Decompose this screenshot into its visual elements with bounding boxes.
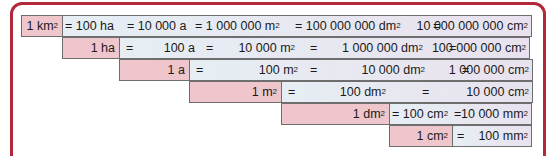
- equivalence-cell-ha: = 100 a = 10 000 m2 = 1 000 000 dm2 = 10…: [120, 37, 530, 59]
- eq-sign: =: [310, 38, 317, 58]
- unit-label: 1 ha: [91, 41, 115, 55]
- unit-cell-cm2: 1 cm2: [389, 125, 453, 147]
- eq-mm2: 10 000 mm2: [461, 104, 528, 124]
- unit-label: 1 km: [26, 19, 53, 33]
- unit-label: 1 m: [252, 85, 273, 99]
- eq-sign: =: [457, 126, 464, 146]
- eq-dm2: = 100 000 000 dm2: [295, 16, 401, 36]
- table-row-ha: 1 ha = 100 a = 10 000 m2 = 1 000 000 dm2…: [62, 37, 530, 59]
- val: 10 000 dm: [361, 63, 420, 77]
- val: = 1 000 000 m: [195, 19, 275, 33]
- val: 10 000 000 000 cm: [417, 19, 524, 33]
- eq-cm2: 10 000 000 000 cm2: [417, 16, 528, 36]
- table-row-km2: 1 km2 = 100 ha = 10 000 a = 1 000 000 m2…: [21, 15, 532, 37]
- eq-sign: =: [288, 82, 295, 102]
- val: = 100 000 000 dm: [295, 19, 396, 33]
- val: 100 m: [259, 63, 294, 77]
- equivalence-cell-a: = 100 m2 = 10 000 dm2 = 1 000 000 cm2: [190, 59, 533, 81]
- table-row-a: 1 a = 100 m2 = 10 000 dm2 = 1 000 000 cm…: [119, 59, 533, 81]
- eq-mm2: 100 mm2: [478, 126, 528, 146]
- val: 1 000 000 cm: [449, 63, 525, 77]
- unit-label: 1 a: [168, 63, 185, 77]
- table-row-dm2: 1 dm2 = 100 cm2 = 10 000 mm2: [281, 103, 532, 125]
- eq-dm2: 100 dm2: [302, 82, 386, 102]
- eq-a: = 10 000 a: [127, 16, 186, 36]
- val: 100 dm: [340, 85, 382, 99]
- table-row-m2: 1 m2 = 100 dm2 = 10 000 cm2: [189, 81, 533, 103]
- val: 1 000 000 dm: [342, 41, 418, 55]
- eq-m2: = 1 000 000 m2: [195, 16, 280, 36]
- equivalence-cell-cm2: = 100 mm2: [453, 125, 532, 147]
- val: = 100 cm: [392, 107, 444, 121]
- eq-dm2: 1 000 000 dm2: [342, 38, 423, 58]
- equivalence-cell-km2: = 100 ha = 10 000 a = 1 000 000 m2 = 100…: [63, 15, 532, 37]
- eq-cm2: 100 000 000 cm2: [432, 38, 526, 58]
- val: 10 000 mm: [461, 107, 524, 121]
- table-row-cm2: 1 cm2 = 100 mm2: [389, 125, 532, 147]
- eq-m2: 10 000 m2: [220, 38, 295, 58]
- val: 100 000 000 cm: [432, 41, 522, 55]
- equivalence-cell-dm2: = 100 cm2 = 10 000 mm2: [390, 103, 532, 125]
- val: 10 000 m: [238, 41, 290, 55]
- eq-ha: = 100 ha: [65, 16, 114, 36]
- eq-cm2: 10 000 cm2: [466, 82, 529, 102]
- eq-sign: =: [196, 60, 203, 80]
- eq-sign: =: [126, 38, 133, 58]
- unit-cell-m2: 1 m2: [189, 81, 282, 103]
- eq-sign: =: [206, 38, 213, 58]
- unit-label: 1 dm: [353, 107, 381, 121]
- eq-cm2: 1 000 000 cm2: [449, 60, 529, 80]
- val: 100 mm: [478, 129, 523, 143]
- eq-sign: =: [422, 82, 429, 102]
- equivalence-cell-m2: = 100 dm2 = 10 000 cm2: [282, 81, 533, 103]
- eq-cm2: = 100 cm2: [392, 104, 448, 124]
- unit-cell-km2: 1 km2: [21, 15, 63, 37]
- val: 10 000 cm: [466, 85, 524, 99]
- eq-a: 100 a: [140, 38, 195, 58]
- unit-cell-a: 1 a: [119, 59, 190, 81]
- eq-dm2: 10 000 dm2: [325, 60, 425, 80]
- unit-label: 1 cm: [416, 129, 443, 143]
- unit-cell-ha: 1 ha: [62, 37, 120, 59]
- eq-sign: =: [310, 60, 317, 80]
- eq-m2: 100 m2: [210, 60, 298, 80]
- unit-cell-dm2: 1 dm2: [281, 103, 390, 125]
